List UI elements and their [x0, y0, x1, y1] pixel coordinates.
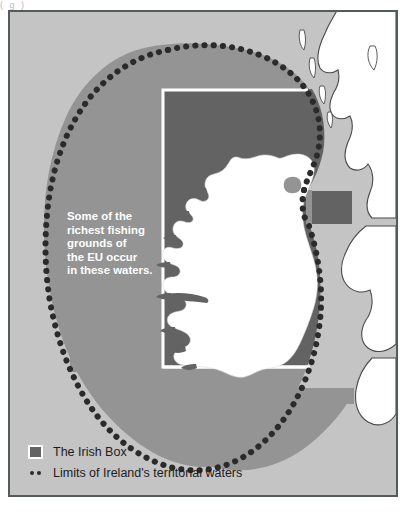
legend-item-irish-box: The Irish Box	[28, 441, 380, 462]
map-caption-line-3: grounds of	[67, 237, 179, 251]
map-caption-line-2: richest fishing	[67, 224, 179, 238]
map-figure-frame: Some of the richest fishing grounds of t…	[8, 10, 398, 497]
box-trim-right-mid	[306, 190, 312, 226]
map-legend: The Irish Box Limits of Ireland's territ…	[28, 441, 380, 483]
legend-item-territorial-limits: Limits of Ireland's territorial waters	[28, 462, 380, 483]
clipped-caption-fragment: ( g )	[0, 0, 406, 10]
map-caption-line-1: Some of the	[67, 210, 179, 224]
map-caption-line-4: the EU occur	[67, 251, 179, 265]
lough-neagh	[284, 177, 302, 194]
dotted-line-swatch-icon	[28, 466, 43, 480]
map-caption-line-5: in these waters.	[67, 264, 179, 278]
irish-box-swatch-icon	[28, 445, 43, 459]
legend-label-territorial-limits: Limits of Ireland's territorial waters	[53, 466, 242, 480]
box-clip-bottom-overlay-2	[70, 312, 162, 372]
legend-label-irish-box: The Irish Box	[53, 445, 127, 459]
map-caption: Some of the richest fishing grounds of t…	[67, 210, 179, 278]
figure-page: ( g )	[0, 0, 406, 514]
